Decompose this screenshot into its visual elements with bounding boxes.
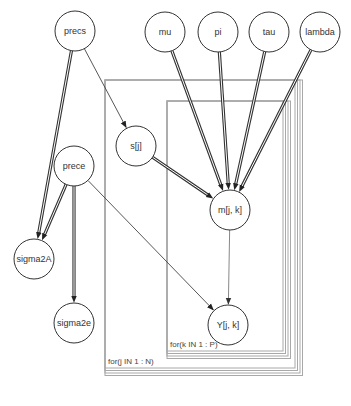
node-sigma2A-label: sigma2A [16, 254, 51, 264]
node-prece-label: prece [63, 161, 86, 171]
node-s[interactable]: s[j] [116, 126, 156, 166]
node-sigma2A[interactable]: sigma2A [14, 239, 54, 279]
node-pi[interactable]: pi [198, 12, 238, 52]
node-tau-label: tau [263, 27, 276, 37]
node-m[interactable]: m[j, k] [210, 190, 250, 230]
node-tau[interactable]: tau [249, 12, 289, 52]
plate-j-label: for(j IN 1 : N) [108, 357, 154, 366]
edge-prece-to-Y [88, 180, 213, 310]
node-Y[interactable]: Y[j, k] [208, 305, 248, 345]
graphical-model-diagram: for(j IN 1 : N)for(k IN 1 : P) precsmupi… [0, 0, 351, 406]
node-s-label: s[j] [130, 141, 142, 151]
node-precs[interactable]: precs [55, 11, 95, 51]
node-sigma2e[interactable]: sigma2e [54, 303, 94, 343]
node-Y-label: Y[j, k] [217, 320, 240, 330]
node-pi-label: pi [214, 27, 221, 37]
node-precs-label: precs [64, 26, 87, 36]
node-lambda[interactable]: lambda [300, 12, 340, 52]
edge-pi-to-m [219, 52, 228, 189]
node-lambda-label: lambda [305, 27, 335, 37]
node-sigma2e-label: sigma2e [57, 318, 91, 328]
node-m-label: m[j, k] [218, 205, 242, 215]
plate-k-label: for(k IN 1 : P) [170, 340, 218, 349]
edge-mu-to-m [172, 51, 223, 190]
node-prece[interactable]: prece [54, 146, 94, 186]
edge-s-to-m [153, 157, 213, 198]
node-mu-label: mu [159, 27, 172, 37]
node-mu[interactable]: mu [145, 12, 185, 52]
edge-m-to-Y [228, 230, 229, 304]
